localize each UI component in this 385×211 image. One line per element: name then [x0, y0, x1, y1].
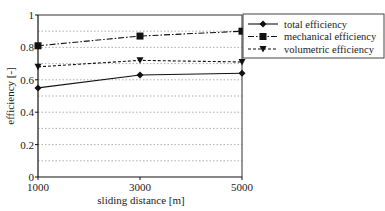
square-marker-icon: [35, 42, 42, 49]
gridlines: [38, 31, 242, 161]
x-tick-label: 1000: [27, 181, 50, 193]
y-axis-label: efficiency [-]: [4, 67, 16, 125]
y-tick-label: 0.4: [20, 106, 34, 118]
triangle-down-marker-icon: [137, 57, 144, 64]
diamond-marker-icon: [137, 71, 144, 78]
y-tick-label: 0.6: [20, 74, 34, 86]
x-tick-label: 5000: [231, 181, 254, 193]
diamond-marker-icon: [35, 84, 42, 91]
legend-item-label: mechanical efficiency: [284, 31, 377, 42]
y-tick-label: 1: [29, 9, 35, 21]
x-tick-label: 3000: [129, 181, 152, 193]
y-tick-label: 0.2: [20, 139, 34, 151]
legend-item-label: total efficiency: [284, 19, 348, 30]
legend-item-label: volumetric efficiency: [284, 44, 375, 55]
square-marker-icon: [260, 33, 267, 40]
y-tick-label: 0.8: [20, 41, 34, 53]
efficiency-chart: 00.20.40.60.81100030005000 total efficie…: [0, 0, 385, 211]
square-marker-icon: [137, 33, 144, 40]
series-total-efficiency: [35, 70, 246, 92]
x-axis-label: sliding distance [m]: [97, 194, 184, 206]
diamond-marker-icon: [239, 70, 246, 77]
legend: total efficiencymechanical efficiencyvol…: [243, 14, 384, 58]
series-lines: [35, 28, 246, 92]
